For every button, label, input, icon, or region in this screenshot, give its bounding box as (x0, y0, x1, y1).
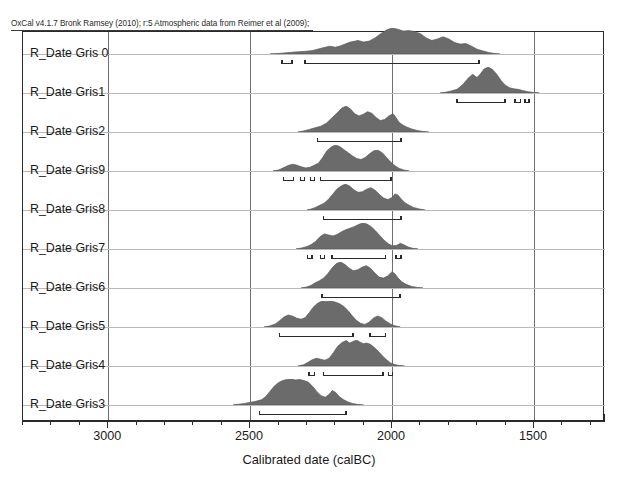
confidence-range-bar (281, 63, 292, 65)
x-tick-2500 (249, 421, 250, 428)
axis-end-cap-right (604, 414, 605, 422)
row-baseline (23, 54, 605, 55)
confidence-range-bar (307, 258, 313, 260)
x-tick-1700 (476, 421, 477, 425)
row-label-r-date-gris8: R_Date Gris8 (30, 202, 105, 216)
confidence-range-bar (300, 180, 306, 182)
gridline-2500 (250, 32, 251, 420)
row-label-r-date-gris1: R_Date Gris1 (30, 85, 105, 99)
confidence-range-bar (283, 180, 294, 182)
x-tick-2200 (334, 421, 335, 425)
x-tick-2900 (136, 421, 137, 425)
x-axis-line (22, 421, 604, 422)
row-baseline (23, 132, 605, 133)
x-tick-2600 (221, 421, 222, 425)
confidence-range-bar (320, 258, 326, 260)
x-tick-1300 (590, 421, 591, 425)
confidence-range-bar (388, 375, 394, 377)
confidence-range-bar (308, 375, 315, 377)
row-baseline (23, 93, 605, 94)
x-tick-2400 (278, 421, 279, 425)
row-baseline (23, 405, 605, 406)
confidence-range-bar (321, 297, 400, 299)
row-baseline (23, 249, 605, 250)
oxcal-plot: OxCal v4.1.7 Bronk Ramsey (2010); r:5 At… (0, 0, 618, 477)
confidence-range-bar (279, 336, 354, 338)
x-axis-title: Calibrated date (calBC) (0, 452, 618, 467)
x-tick-label-3000: 3000 (93, 429, 121, 443)
x-tick-1500 (533, 421, 534, 428)
row-label-r-date-gris-0: R_Date Gris 0 (30, 46, 109, 60)
x-tick-label-2000: 2000 (377, 429, 405, 443)
row-label-r-date-gris2: R_Date Gris2 (30, 124, 105, 138)
row-baseline (23, 210, 605, 211)
confidence-range-bar (323, 375, 384, 377)
row-label-r-date-gris3: R_Date Gris3 (30, 397, 105, 411)
confidence-range-bar (310, 180, 316, 182)
confidence-range-bar (320, 180, 392, 182)
x-tick-1600 (505, 421, 506, 425)
x-tick-label-1500: 1500 (519, 429, 547, 443)
confidence-range-bar (323, 219, 402, 221)
x-tick-1900 (419, 421, 420, 425)
x-tick-3200 (50, 421, 51, 425)
confidence-range-bar (331, 258, 386, 260)
oxcal-credit-line: OxCal v4.1.7 Bronk Ramsey (2010); r:5 At… (11, 19, 309, 28)
confidence-range-bar (259, 414, 347, 416)
row-label-r-date-gris7: R_Date Gris7 (30, 241, 105, 255)
probability-distribution (270, 28, 500, 32)
x-tick-1400 (561, 421, 562, 425)
confidence-range-bar (524, 102, 530, 104)
confidence-range-bar (395, 258, 402, 260)
x-tick-label-2500: 2500 (235, 429, 263, 443)
gridline-3000 (108, 32, 109, 420)
row-label-r-date-gris5: R_Date Gris5 (30, 319, 105, 333)
x-tick-2800 (164, 421, 165, 425)
row-baseline (23, 171, 605, 172)
axis-end-cap-left (22, 414, 23, 422)
row-baseline (23, 288, 605, 289)
confidence-range-bar (304, 63, 480, 65)
confidence-range-bar (317, 141, 402, 143)
x-tick-3000 (107, 421, 108, 428)
row-baseline (23, 327, 605, 328)
row-label-r-date-gris9: R_Date Gris9 (30, 163, 105, 177)
x-tick-1800 (448, 421, 449, 425)
row-label-r-date-gris6: R_Date Gris6 (30, 280, 105, 294)
row-label-r-date-gris4: R_Date Gris4 (30, 358, 105, 372)
x-tick-2000 (391, 421, 392, 428)
x-tick-2700 (192, 421, 193, 425)
plot-frame (22, 31, 604, 421)
row-baseline (23, 366, 605, 367)
x-tick-3100 (79, 421, 80, 425)
confidence-range-bar (456, 102, 506, 104)
confidence-range-bar (514, 102, 521, 104)
x-tick-2100 (363, 421, 364, 425)
x-tick-2300 (306, 421, 307, 425)
confidence-range-bar (369, 336, 386, 338)
